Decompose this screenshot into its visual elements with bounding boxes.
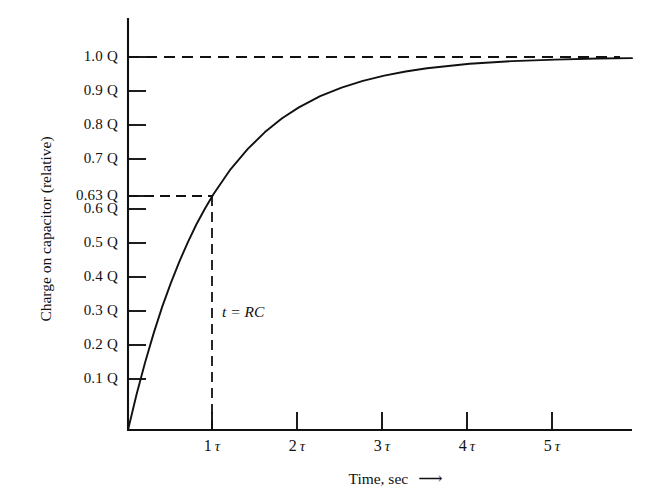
y-tick-label-1.0: 1.0 Q bbox=[40, 48, 118, 65]
y-tick-group bbox=[128, 57, 146, 379]
capacitor-charging-chart: 1.0 Q 0.9 Q 0.8 Q 0.7 Q 0.63 Q 0.6 Q 0.5… bbox=[0, 0, 667, 498]
x-tick-number-1: 1 bbox=[204, 437, 212, 454]
x-axis-title-text: Time, sec bbox=[348, 470, 408, 487]
x-tick-number-4: 4 bbox=[459, 437, 467, 454]
tau-symbol-5: τ bbox=[552, 438, 560, 454]
time-constant-annotation: t = RC bbox=[222, 303, 264, 321]
tau-symbol-4: τ bbox=[467, 438, 475, 454]
y-axis-title: Charge on capacitor (relative) bbox=[37, 79, 55, 379]
x-tick-number-2: 2 bbox=[289, 437, 297, 454]
x-tick-label-5tau: 5τ bbox=[522, 437, 582, 455]
x-tick-label-2tau: 2τ bbox=[267, 437, 327, 455]
x-tick-label-1tau: 1τ bbox=[182, 437, 242, 455]
x-tick-label-3tau: 3τ bbox=[352, 437, 412, 455]
x-tick-number-3: 3 bbox=[374, 437, 382, 454]
tau-symbol-3: τ bbox=[382, 438, 390, 454]
x-tick-number-5: 5 bbox=[544, 437, 552, 454]
x-axis-title: Time, sec⟶ bbox=[300, 468, 490, 489]
right-arrow-icon: ⟶ bbox=[408, 468, 441, 489]
charging-curve-line bbox=[128, 58, 632, 430]
tau-symbol-2: τ bbox=[297, 438, 305, 454]
x-tick-group bbox=[212, 412, 552, 430]
tau-symbol-1: τ bbox=[212, 438, 220, 454]
x-tick-label-4tau: 4τ bbox=[437, 437, 497, 455]
